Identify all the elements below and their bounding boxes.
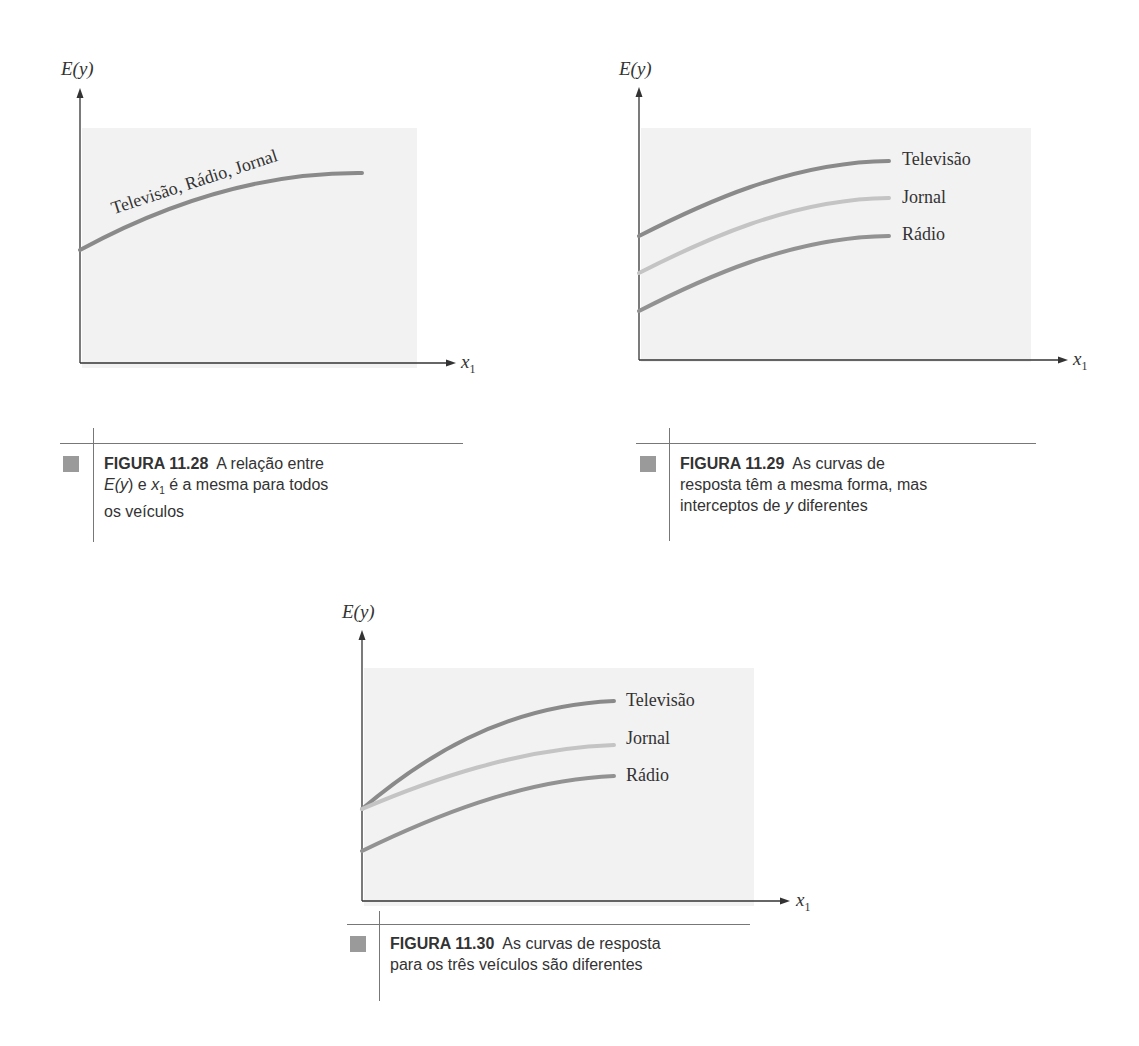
caption-divider	[347, 924, 750, 925]
chart-11-30	[0, 0, 1139, 1046]
y-axis-label: E(y)	[342, 601, 375, 623]
label-televisao: Televisão	[626, 690, 695, 711]
caption-vertical-rule	[379, 911, 380, 1001]
label-radio: Rádio	[626, 765, 669, 786]
figure-11-30: E(y) x1 Televisão Jornal Rádio	[0, 0, 1139, 1046]
x-axis-arrow-icon	[780, 898, 790, 905]
x-axis-label: x1	[796, 889, 810, 915]
y-axis-arrow-icon	[359, 630, 366, 640]
label-jornal: Jornal	[626, 728, 670, 749]
caption-text: FIGURA 11.30As curvas de resposta para o…	[390, 933, 770, 975]
caption-marker-square-icon	[350, 936, 366, 952]
